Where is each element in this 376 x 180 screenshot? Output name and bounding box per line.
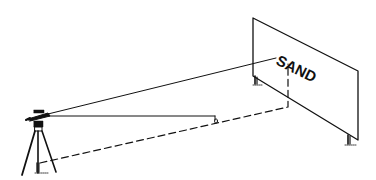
ground-stake bbox=[35, 163, 48, 173]
ground-dashed-line bbox=[40, 64, 288, 163]
surveying-diagram: SAND bbox=[0, 0, 376, 180]
sight-line bbox=[48, 58, 276, 114]
